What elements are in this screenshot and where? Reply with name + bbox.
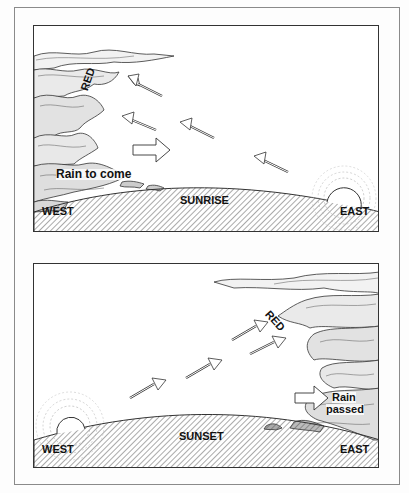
- sunrise-panel: RED Rain to come SUNRISE WEST EAST: [33, 25, 379, 232]
- west-label: WEST: [41, 443, 75, 455]
- east-label: EAST: [339, 443, 370, 455]
- west-label: WEST: [41, 205, 75, 217]
- sunlight-arrows: [130, 320, 286, 398]
- storm-clouds: [34, 50, 174, 212]
- rain-to-come-label: Rain to come: [56, 169, 131, 180]
- sunset-panel: RED Rain passed SUNSET WEST EAST: [33, 263, 379, 468]
- sunrise-title: SUNRISE: [179, 194, 230, 206]
- sunlight-arrows: [122, 74, 288, 172]
- east-label: EAST: [339, 205, 370, 217]
- rain-passed-label-line2: passed: [326, 404, 364, 415]
- rain-direction-arrow: [133, 138, 170, 162]
- rain-passed-label-line1: Rain: [332, 392, 356, 403]
- sunset-title: SUNSET: [178, 430, 225, 442]
